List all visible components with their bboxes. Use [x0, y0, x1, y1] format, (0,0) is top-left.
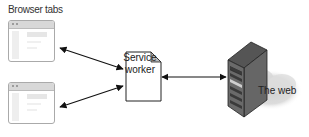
- the-web-label: The web: [258, 85, 296, 96]
- arrow-tab2-sw: [60, 86, 123, 107]
- arrow-tab1-sw: [60, 48, 123, 69]
- service-worker-label: Service worker: [115, 52, 165, 76]
